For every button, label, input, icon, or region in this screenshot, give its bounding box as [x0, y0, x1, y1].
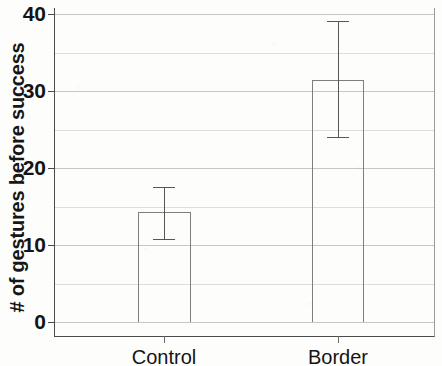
- y-axis-tick-label: 40: [23, 2, 46, 26]
- y-axis-tick-label: 0: [34, 310, 46, 334]
- y-axis-tick: [48, 245, 55, 246]
- error-bar-cap-lower-control: [153, 239, 175, 240]
- gridline: [55, 91, 434, 92]
- error-bar-cap-lower-border: [327, 137, 349, 138]
- x-axis-tick-label-border: Border: [308, 346, 368, 366]
- gridline: [55, 284, 434, 285]
- y-axis-tick: [48, 91, 55, 92]
- gridline: [55, 168, 434, 169]
- y-axis-tick: [48, 14, 55, 15]
- x-axis-tick: [164, 336, 165, 343]
- error-bar-cap-upper-control: [153, 187, 175, 188]
- gridline: [55, 53, 434, 54]
- error-bar-line-border: [338, 21, 339, 137]
- y-axis-tick-label: 10: [23, 233, 46, 257]
- gridline-zero: [55, 322, 434, 323]
- x-axis-tick-label-control: Control: [132, 346, 196, 366]
- error-bar-line-control: [164, 187, 165, 239]
- plot-area: 403020100ControlBorder: [54, 8, 435, 337]
- bar-chart-figure: # of gestures before success 403020100Co…: [0, 0, 442, 366]
- gridline: [55, 130, 434, 131]
- y-axis-tick-label: 30: [23, 79, 46, 103]
- gridline: [55, 207, 434, 208]
- y-axis-tick: [48, 168, 55, 169]
- x-axis-tick: [338, 336, 339, 343]
- gridline: [55, 14, 434, 15]
- y-axis-tick: [48, 322, 55, 323]
- error-bar-cap-upper-border: [327, 21, 349, 22]
- y-axis-tick-label: 20: [23, 156, 46, 180]
- gridline: [55, 245, 434, 246]
